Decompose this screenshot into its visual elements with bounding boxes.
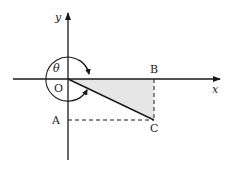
- angle-theta-label: θ: [53, 62, 60, 75]
- point-b-label: B: [150, 63, 158, 76]
- origin-label: O: [54, 82, 63, 95]
- x-axis-label: x: [212, 83, 219, 96]
- point-c-label: C: [150, 122, 158, 135]
- y-axis-label: y: [54, 11, 62, 24]
- coordinate-diagram: y x θ O B C A: [0, 0, 232, 169]
- angle-arc-arrow-top: [79, 60, 89, 74]
- point-a-label: A: [51, 114, 61, 127]
- angle-arc-arrow-bottom: [72, 90, 87, 101]
